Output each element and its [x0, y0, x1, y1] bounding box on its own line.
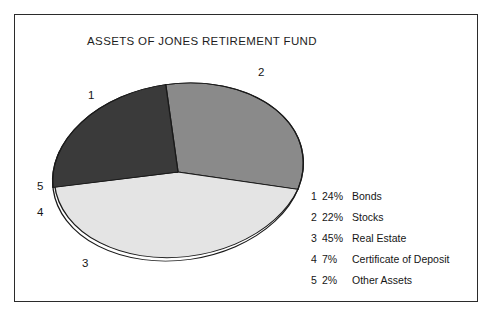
chart-figure: ASSETS OF JONES RETIREMENT FUND 1 2 3 4 … — [0, 0, 495, 316]
pie-label-4: 4 — [37, 207, 43, 219]
legend-key: 1 — [311, 190, 322, 202]
legend-row: 3 45% Real Estate — [311, 232, 449, 253]
pie-label-1: 1 — [88, 90, 94, 102]
legend-row: 2 22% Stocks — [311, 211, 449, 232]
legend-row: 4 7% Certificate of Deposit — [311, 253, 449, 274]
legend-key: 5 — [311, 274, 322, 286]
pie-label-5: 5 — [37, 181, 43, 193]
legend-label: Other Assets — [352, 274, 412, 286]
pie-label-3: 3 — [82, 258, 88, 270]
legend-row: 1 24% Bonds — [311, 190, 449, 211]
legend-key: 4 — [311, 253, 322, 265]
pie-slice-bonds[interactable] — [41, 85, 178, 190]
legend-row: 5 2% Other Assets — [311, 274, 449, 295]
legend-percent: 7% — [322, 253, 352, 265]
legend-percent: 22% — [322, 211, 352, 223]
legend-key: 2 — [311, 211, 322, 223]
legend-percent: 45% — [322, 232, 352, 244]
chart-legend: 1 24% Bonds 2 22% Stocks 3 45% Real Esta… — [311, 190, 449, 295]
legend-label: Bonds — [352, 190, 382, 202]
legend-label: Real Estate — [352, 232, 406, 244]
legend-key: 3 — [311, 232, 322, 244]
pie-label-2: 2 — [258, 67, 264, 79]
legend-percent: 2% — [322, 274, 352, 286]
legend-label: Stocks — [352, 211, 384, 223]
legend-percent: 24% — [322, 190, 352, 202]
legend-label: Certificate of Deposit — [352, 253, 449, 265]
